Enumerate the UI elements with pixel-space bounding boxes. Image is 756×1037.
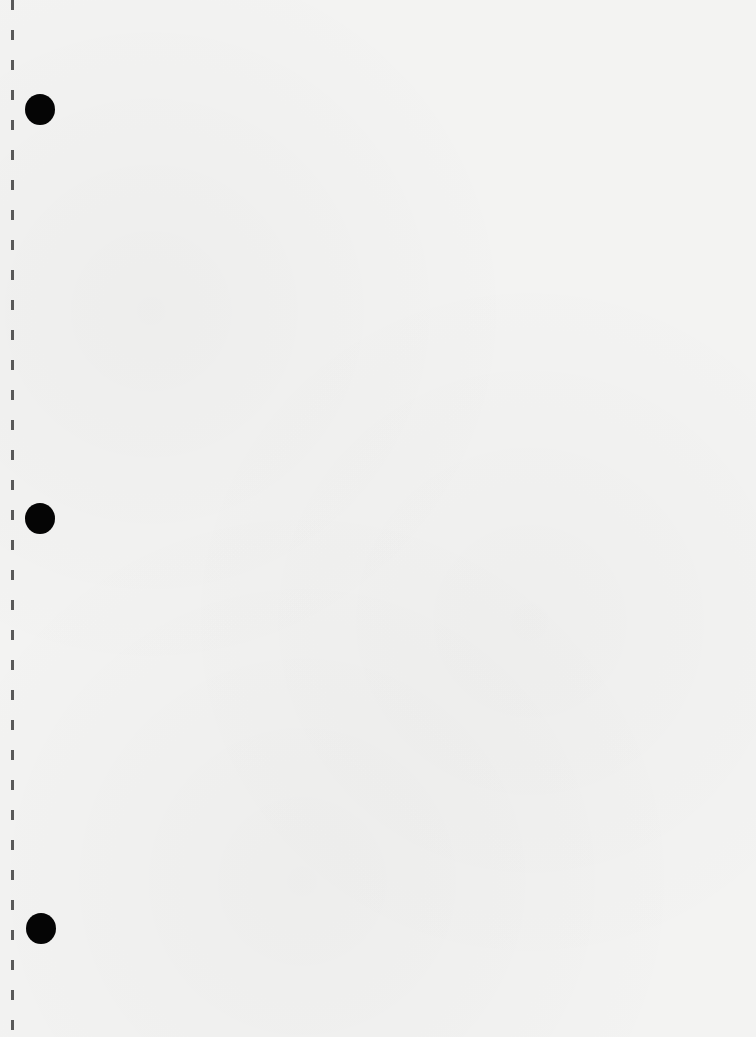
punch-hole-top [25, 94, 55, 125]
punch-hole-middle [25, 503, 55, 534]
punch-hole-bottom [26, 913, 56, 944]
paper-sheet [0, 0, 756, 1037]
perforation-line [11, 0, 14, 1037]
